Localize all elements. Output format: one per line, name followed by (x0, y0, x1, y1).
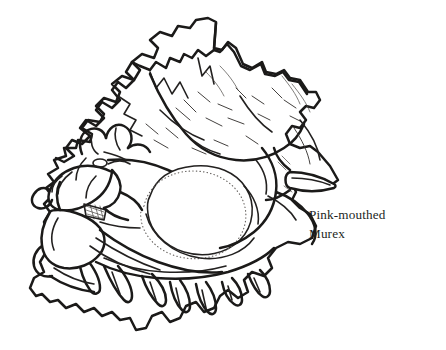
caption-line-2: Murex (309, 224, 437, 243)
figure-root: Pink-mouthed Murex (0, 0, 446, 350)
caption-line-1: Pink-mouthed (309, 205, 437, 224)
caption-block: Pink-mouthed Murex (309, 205, 437, 243)
shell-illustration (0, 0, 446, 350)
